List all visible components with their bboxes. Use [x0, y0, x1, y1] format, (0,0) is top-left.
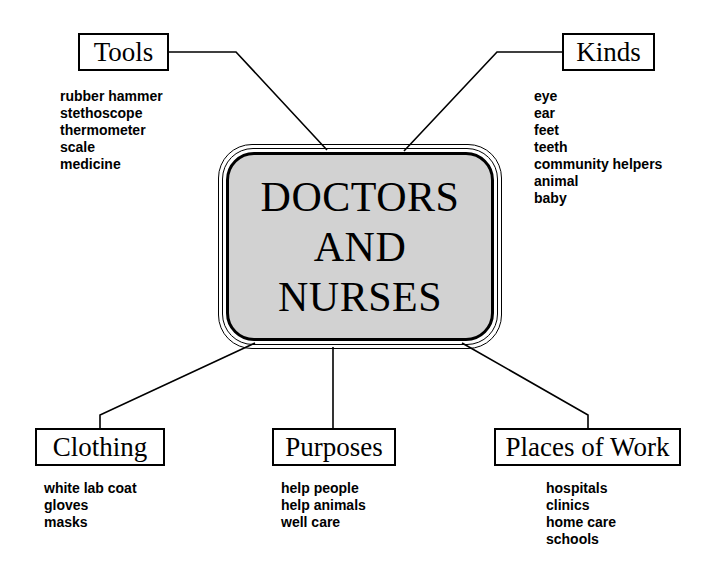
branch-label-text: Places of Work — [506, 434, 670, 461]
list-item: well care — [281, 514, 366, 531]
branch-items-tools: rubber hammerstethoscopethermometerscale… — [60, 88, 163, 173]
list-item: white lab coat — [44, 480, 137, 497]
branch-label-purposes[interactable]: Purposes — [272, 428, 396, 466]
connector-tools — [169, 52, 327, 150]
list-item: thermometer — [60, 122, 163, 139]
list-item: help people — [281, 480, 366, 497]
center-node-body: DOCTORS AND NURSES — [226, 152, 494, 341]
branch-items-clothing: white lab coatglovesmasks — [44, 480, 137, 531]
list-item: rubber hammer — [60, 88, 163, 105]
list-item: scale — [60, 139, 163, 156]
center-node-title: DOCTORS AND NURSES — [261, 172, 460, 322]
connector-places — [462, 343, 588, 428]
concept-map: DOCTORS AND NURSES Tools Kinds Clothing … — [0, 0, 719, 585]
list-item: masks — [44, 514, 137, 531]
list-item: eye — [534, 88, 662, 105]
branch-label-text: Kinds — [576, 39, 641, 66]
list-item: animal — [534, 173, 662, 190]
branch-label-clothing[interactable]: Clothing — [35, 428, 165, 466]
list-item: hospitals — [546, 480, 616, 497]
branch-items-places-of-work: hospitalsclinicshome careschools — [546, 480, 616, 548]
list-item: help animals — [281, 497, 366, 514]
branch-label-tools[interactable]: Tools — [78, 33, 169, 71]
list-item: baby — [534, 190, 662, 207]
branch-items-kinds: eyeearfeetteethcommunity helpersanimalba… — [534, 88, 662, 207]
branch-items-purposes: help peoplehelp animalswell care — [281, 480, 366, 531]
list-item: feet — [534, 122, 662, 139]
list-item: schools — [546, 531, 616, 548]
center-node[interactable]: DOCTORS AND NURSES — [218, 144, 502, 349]
branch-label-kinds[interactable]: Kinds — [562, 33, 655, 71]
list-item: clinics — [546, 497, 616, 514]
branch-label-text: Clothing — [53, 434, 148, 461]
list-item: ear — [534, 105, 662, 122]
list-item: stethoscope — [60, 105, 163, 122]
connector-clothing — [100, 343, 255, 428]
list-item: home care — [546, 514, 616, 531]
branch-label-text: Tools — [94, 39, 154, 66]
list-item: teeth — [534, 139, 662, 156]
list-item: medicine — [60, 156, 163, 173]
list-item: community helpers — [534, 156, 662, 173]
branch-label-places-of-work[interactable]: Places of Work — [494, 428, 681, 466]
branch-label-text: Purposes — [285, 434, 383, 461]
list-item: gloves — [44, 497, 137, 514]
